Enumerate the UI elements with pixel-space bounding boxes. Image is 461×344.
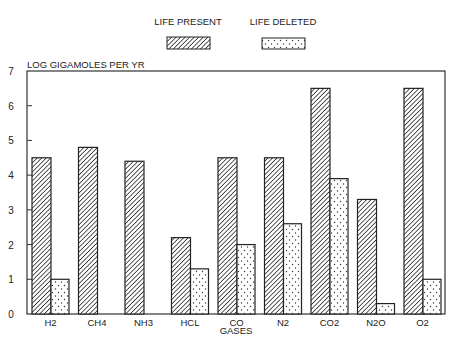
bar-life-present-ch4 bbox=[79, 147, 98, 314]
bar-group-o2 bbox=[404, 88, 441, 314]
bar-group-nh3 bbox=[125, 161, 144, 314]
bar-life-deleted-n2 bbox=[284, 224, 302, 314]
x-tick-label: CH4 bbox=[87, 317, 106, 328]
bar-life-present-n2 bbox=[265, 158, 284, 314]
y-tick-label: 4 bbox=[8, 170, 14, 181]
legend-label-life-present: LIFE PRESENT bbox=[154, 16, 222, 27]
x-tick-label: O2 bbox=[416, 317, 429, 328]
y-tick-label: 7 bbox=[8, 66, 14, 77]
x-tick-label: N2 bbox=[277, 317, 289, 328]
y-tick-label: 5 bbox=[8, 135, 14, 146]
legend-label-life-deleted: LIFE DELETED bbox=[250, 16, 317, 27]
bar-life-deleted-co2 bbox=[330, 179, 348, 314]
bar-life-present-hcl bbox=[172, 238, 191, 314]
x-tick-label: NH3 bbox=[134, 317, 153, 328]
bar-life-present-co2 bbox=[311, 88, 330, 314]
bar-life-deleted-co bbox=[237, 245, 255, 314]
bar-life-deleted-o2 bbox=[423, 279, 441, 314]
x-tick-label: N2O bbox=[366, 317, 386, 328]
bar-life-deleted-n2o bbox=[377, 304, 395, 314]
bar-life-present-h2 bbox=[32, 158, 51, 314]
legend-swatch-hatch bbox=[167, 37, 210, 49]
bar-group-n2o bbox=[358, 199, 395, 314]
bar-life-deleted-h2 bbox=[51, 279, 69, 314]
bar-group-n2 bbox=[265, 158, 302, 314]
legend-item-life-present: LIFE PRESENT bbox=[154, 16, 222, 49]
y-axis-label: LOG GIGAMOLES PER YR bbox=[27, 59, 145, 70]
bar-life-present-co bbox=[218, 158, 237, 314]
legend-item-life-deleted: LIFE DELETED bbox=[250, 16, 317, 49]
bar-life-deleted-hcl bbox=[191, 269, 209, 314]
bar-group-co bbox=[218, 158, 255, 314]
bar-life-present-n2o bbox=[358, 199, 377, 314]
bar-life-present-o2 bbox=[404, 88, 423, 314]
legend: LIFE PRESENT LIFE DELETED bbox=[154, 16, 316, 49]
bar-chart: LIFE PRESENT LIFE DELETED LOG GIGAMOLES … bbox=[0, 0, 461, 344]
bars bbox=[32, 88, 441, 314]
y-tick-label: 6 bbox=[8, 101, 14, 112]
x-axis-label: GASES bbox=[220, 325, 253, 336]
x-tick-label: CO2 bbox=[320, 317, 340, 328]
legend-swatch-dots bbox=[262, 38, 305, 49]
x-tick-label: H2 bbox=[44, 317, 56, 328]
y-tick-label: 2 bbox=[8, 240, 14, 251]
bar-group-h2 bbox=[32, 158, 69, 314]
y-tick-label: 3 bbox=[8, 205, 14, 216]
bar-group-ch4 bbox=[79, 147, 98, 314]
bar-life-present-nh3 bbox=[125, 161, 144, 314]
bar-group-co2 bbox=[311, 88, 348, 314]
y-axis-ticks: 01234567 bbox=[8, 66, 32, 320]
y-tick-label: 0 bbox=[8, 309, 14, 320]
x-tick-label: HCL bbox=[180, 317, 199, 328]
bar-group-hcl bbox=[172, 238, 209, 314]
y-tick-label: 1 bbox=[8, 274, 14, 285]
